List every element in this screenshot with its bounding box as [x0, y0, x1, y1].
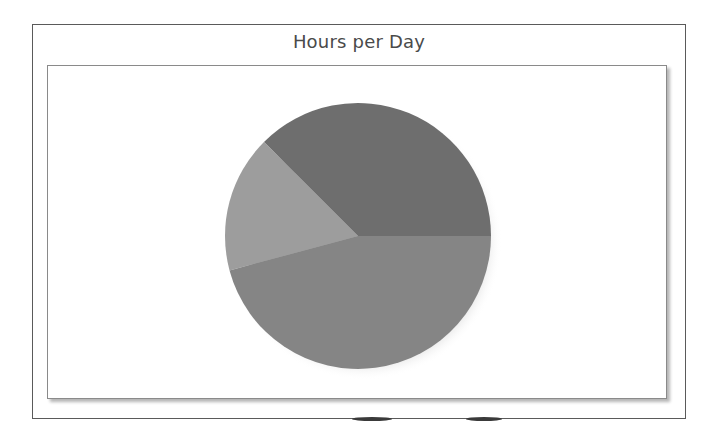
pie-slices: [225, 103, 491, 369]
pie-chart: [0, 0, 715, 440]
bottom-mark: [466, 417, 502, 421]
bottom-mark: [352, 417, 392, 421]
